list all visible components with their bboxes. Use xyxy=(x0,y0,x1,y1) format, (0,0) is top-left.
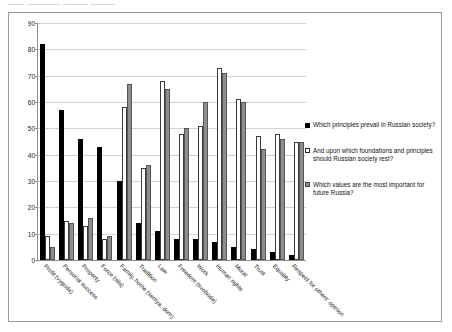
bar xyxy=(261,149,266,260)
y-axis-labels: 0102030405060708090 xyxy=(15,23,35,260)
x-axis-category-labels: Profit (vygoda)Personal successPropertyF… xyxy=(37,262,305,322)
legend-item[interactable]: Which values are the most important for … xyxy=(305,181,437,198)
bars-layer xyxy=(38,23,306,260)
bar-group xyxy=(76,23,95,260)
bar xyxy=(299,142,304,261)
x-category-slot: Freedom (svoboda) xyxy=(171,262,190,322)
x-category-slot: Profit (vygoda) xyxy=(37,262,56,322)
x-category-label: Moral xyxy=(234,263,249,278)
y-tick-label: 10 xyxy=(28,230,35,237)
x-category-slot: Force (sila) xyxy=(94,262,113,322)
x-category-label: Law xyxy=(157,263,169,275)
bar-group xyxy=(229,23,248,260)
legend-swatch-icon xyxy=(305,182,310,187)
bar-group xyxy=(95,23,114,260)
bar xyxy=(88,218,93,260)
bar-group xyxy=(268,23,287,260)
bar-group xyxy=(249,23,268,260)
bar-group xyxy=(134,23,153,260)
legend-swatch-icon xyxy=(305,123,310,128)
bar xyxy=(127,84,132,260)
bar xyxy=(280,139,285,260)
legend-swatch-icon xyxy=(305,148,310,153)
bar-group xyxy=(287,23,306,260)
bar-group xyxy=(38,23,57,260)
legend-item[interactable]: And upon which foundations and principle… xyxy=(305,147,437,164)
bar-group xyxy=(115,23,134,260)
x-category-slot: Work xyxy=(190,262,209,322)
x-category-slot: Tradition xyxy=(133,262,152,322)
x-category-label: Trust xyxy=(253,263,267,277)
x-category-slot: Respect for others' opinion xyxy=(286,262,305,322)
legend-item[interactable]: Which principles prevail in Russian soci… xyxy=(305,121,437,130)
y-tick-label: 70 xyxy=(28,72,35,79)
x-category-slot: Trust xyxy=(248,262,267,322)
bar xyxy=(203,102,208,260)
bar xyxy=(107,236,112,260)
legend-label: Which principles prevail in Russian soci… xyxy=(313,121,435,130)
plot-area xyxy=(37,23,306,261)
bar xyxy=(69,223,74,260)
legend-label: Which values are the most important for … xyxy=(313,181,437,198)
bar-group xyxy=(191,23,210,260)
legend-label: And upon which foundations and principle… xyxy=(313,147,437,164)
bar-group xyxy=(210,23,229,260)
x-category-slot: Law xyxy=(152,262,171,322)
x-category-slot: Personal success xyxy=(56,262,75,322)
y-tick-label: 90 xyxy=(28,20,35,27)
y-tick-label: 20 xyxy=(28,204,35,211)
y-tick-label: 40 xyxy=(28,151,35,158)
x-category-label: Work xyxy=(195,263,209,277)
x-category-slot: Property xyxy=(75,262,94,322)
bar xyxy=(165,89,170,260)
y-tick-label: 80 xyxy=(28,46,35,53)
x-category-slot: Human rights xyxy=(209,262,228,322)
bar xyxy=(241,102,246,260)
chart-plot-wrapper: 0102030405060708090 Profit (vygoda)Perso… xyxy=(9,13,441,321)
bar-group xyxy=(153,23,172,260)
bar xyxy=(184,128,189,260)
x-category-slot: Equality xyxy=(267,262,286,322)
chart-frame: 0102030405060708090 Profit (vygoda)Perso… xyxy=(8,12,442,322)
bar xyxy=(50,247,55,260)
bar xyxy=(146,165,151,260)
x-category-slot: Moral xyxy=(228,262,247,322)
bar-group xyxy=(172,23,191,260)
chart-legend: Which principles prevail in Russian soci… xyxy=(305,121,437,215)
bar xyxy=(40,44,45,260)
y-tickmark xyxy=(35,260,38,261)
x-category-slot: Family, home (semya, dom) xyxy=(114,262,133,322)
y-tick-label: 30 xyxy=(28,178,35,185)
bar-group xyxy=(57,23,76,260)
y-tick-label: 50 xyxy=(28,125,35,132)
bar xyxy=(222,73,227,260)
page-header: —— ———— ——— ——— xyxy=(8,0,208,7)
x-category-label: Respect for others' opinion xyxy=(291,263,346,318)
y-tick-label: 60 xyxy=(28,99,35,106)
